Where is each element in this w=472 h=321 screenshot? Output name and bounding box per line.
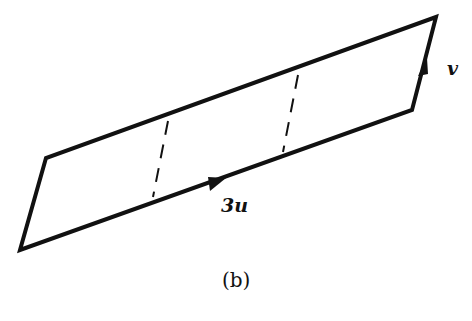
figure-caption: (b)	[222, 268, 250, 292]
label-v: v	[447, 57, 458, 79]
label-3u: 3u	[221, 194, 248, 216]
dashed-divider-2	[283, 75, 298, 152]
dashed-divider-1	[153, 121, 168, 197]
arrowhead-3u-icon	[208, 177, 226, 191]
